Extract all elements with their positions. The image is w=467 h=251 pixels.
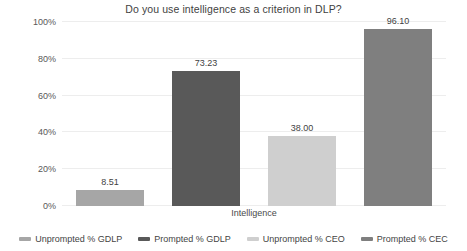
- plot-area: 8.5173.2338.0096.10: [62, 22, 446, 206]
- y-axis-tick-label: 60%: [4, 91, 56, 101]
- legend-item-label: Prompted % GDLP: [154, 234, 231, 244]
- legend-swatch-icon: [19, 237, 31, 241]
- chart-title: Do you use intelligence as a criterion i…: [0, 3, 467, 15]
- y-axis-tick-label: 80%: [4, 54, 56, 64]
- legend-item-label: Unprompted % CEO: [263, 234, 345, 244]
- bar-value-label: 38.00: [291, 123, 314, 133]
- bar: [364, 29, 432, 206]
- bar: [172, 71, 240, 206]
- legend-swatch-icon: [138, 237, 150, 241]
- legend-swatch-icon: [247, 237, 259, 241]
- y-axis: 0%20%40%60%80%100%: [0, 22, 56, 206]
- legend-item[interactable]: Unprompted % GDLP: [19, 234, 122, 244]
- legend-item[interactable]: Unprompted % CEO: [247, 234, 345, 244]
- chart-legend: Unprompted % GDLPPrompted % GDLPUnprompt…: [0, 231, 467, 247]
- y-axis-tick-label: 40%: [4, 127, 56, 137]
- legend-swatch-icon: [361, 237, 373, 241]
- y-axis-tick-label: 0%: [4, 201, 56, 211]
- bar-value-label: 8.51: [101, 177, 119, 187]
- y-axis-tick-label: 100%: [4, 17, 56, 27]
- bar-value-label: 96.10: [387, 16, 410, 26]
- legend-item[interactable]: Prompted % CEC: [361, 234, 448, 244]
- x-axis-label: Intelligence: [62, 208, 446, 218]
- bar-value-label: 73.23: [195, 58, 218, 68]
- legend-item[interactable]: Prompted % GDLP: [138, 234, 231, 244]
- y-axis-tick-label: 20%: [4, 164, 56, 174]
- bar: [76, 190, 144, 206]
- legend-item-label: Prompted % CEC: [377, 234, 448, 244]
- bar: [268, 136, 336, 206]
- legend-item-label: Unprompted % GDLP: [35, 234, 122, 244]
- bar-chart: Do you use intelligence as a criterion i…: [0, 0, 467, 251]
